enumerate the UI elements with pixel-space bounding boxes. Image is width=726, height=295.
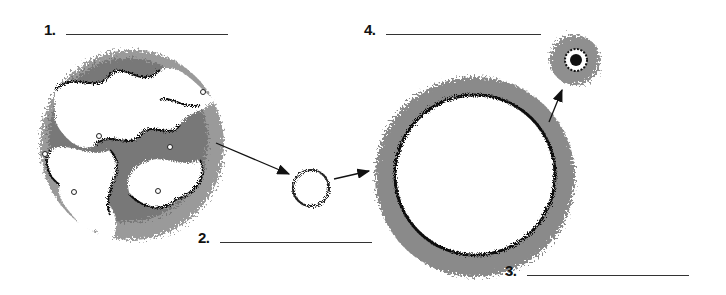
- stage-2-number: 2.: [198, 230, 210, 245]
- diagram-canvas: [0, 0, 726, 295]
- giant-star-illustration: [375, 77, 575, 277]
- stage-3-number: 3.: [505, 263, 517, 278]
- arrow-1-to-2: [216, 143, 289, 174]
- stage-4-label: 4.: [364, 22, 541, 37]
- stage-4-number: 4.: [364, 22, 376, 37]
- small-star-illustration: [293, 170, 329, 206]
- planetary-nebula-illustration: [550, 35, 600, 85]
- stage-4-answer-blank[interactable]: [386, 34, 541, 35]
- stage-1-label: 1.: [44, 22, 228, 37]
- arrow-3-to-4: [549, 90, 562, 122]
- nebula-illustration: [40, 50, 224, 240]
- arrow-2-to-3: [334, 171, 369, 179]
- stage-1-answer-blank[interactable]: [66, 34, 228, 35]
- stage-3-label: 3.: [505, 263, 689, 278]
- stage-3-answer-blank[interactable]: [527, 275, 689, 276]
- stage-1-number: 1.: [44, 22, 56, 37]
- stage-2-label: 2.: [198, 230, 372, 245]
- stage-2-answer-blank[interactable]: [220, 242, 372, 243]
